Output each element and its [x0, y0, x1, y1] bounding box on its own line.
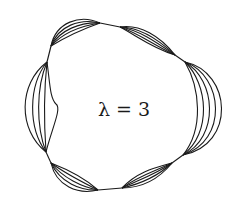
- lobe-top-left: [51, 19, 100, 46]
- lobe-left: [25, 62, 58, 152]
- lobe-bottom-left: [51, 163, 98, 191]
- lambda-label: λ = 3: [98, 96, 158, 122]
- lobe-right: [183, 62, 222, 155]
- lobe-bottom-right: [122, 163, 172, 188]
- lobe-top-right: [120, 27, 175, 55]
